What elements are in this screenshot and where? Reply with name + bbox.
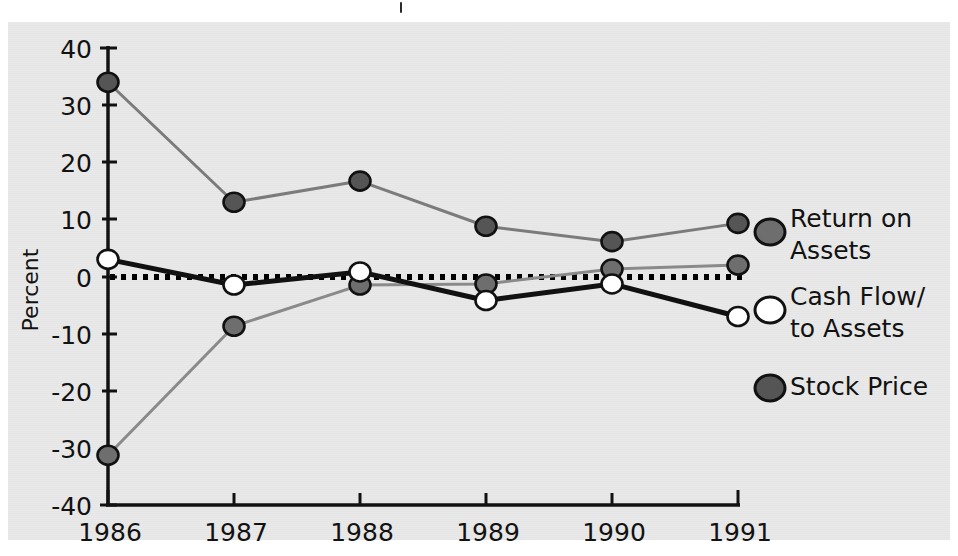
- data-point-marker: [602, 232, 623, 251]
- chart-legend: Return onAssetsCash Flow/to AssetsStock …: [755, 204, 928, 401]
- x-tick-label-1990: 1990: [582, 518, 646, 547]
- series-line-2: [108, 82, 738, 241]
- y-tick-label-20: 20: [60, 149, 92, 178]
- series-lines-group: [108, 82, 738, 455]
- data-point-marker: [728, 307, 749, 326]
- data-point-marker: [350, 172, 371, 191]
- data-point-marker: [476, 217, 497, 236]
- data-point-marker: [98, 446, 119, 465]
- x-tick-label-1991: 1991: [708, 518, 772, 547]
- y-tick-label-40: 40: [60, 35, 92, 64]
- legend-label-0-line1: Return on: [790, 204, 912, 233]
- x-tick-label-1986: 1986: [78, 518, 142, 547]
- data-point-marker: [98, 250, 119, 269]
- y-tick-label-neg40: -40: [51, 492, 92, 521]
- y-tick-label-0: 0: [76, 264, 92, 293]
- data-point-marker: [98, 73, 119, 92]
- data-point-marker: [224, 193, 245, 212]
- data-point-marker: [350, 262, 371, 281]
- x-tick-label-1989: 1989: [456, 518, 520, 547]
- legend-label-1-line1: Cash Flow/: [790, 282, 926, 311]
- data-point-marker: [224, 276, 245, 295]
- legend-label-1-line2: to Assets: [790, 314, 904, 343]
- y-tick-label-neg30: -30: [51, 435, 92, 464]
- legend-label-2-line1: Stock Price: [790, 372, 928, 401]
- y-tick-label-30: 30: [60, 92, 92, 121]
- x-tick-label-1987: 1987: [204, 518, 268, 547]
- plot-area: 40 30 20 10 0 -10 -20 -30 -40 1986 1987 …: [0, 0, 958, 556]
- y-tick-label-10: 10: [60, 206, 92, 235]
- y-tick-label-neg10: -10: [51, 321, 92, 350]
- legend-label-0-line2: Assets: [790, 236, 871, 265]
- data-point-marker: [476, 291, 497, 310]
- data-point-marker: [728, 256, 749, 275]
- legend-swatch-2: [755, 375, 785, 401]
- legend-swatch-1: [755, 297, 785, 323]
- y-axis-title: Percent: [18, 248, 43, 331]
- y-tick-label-neg20: -20: [51, 378, 92, 407]
- x-axis-ticks: [108, 490, 738, 505]
- data-point-marker: [728, 214, 749, 233]
- legend-swatch-0: [755, 219, 785, 245]
- data-point-marker: [602, 274, 623, 293]
- x-tick-label-1988: 1988: [330, 518, 394, 547]
- chart-figure: 40 30 20 10 0 -10 -20 -30 -40 1986 1987 …: [0, 0, 958, 556]
- data-point-marker: [224, 317, 245, 336]
